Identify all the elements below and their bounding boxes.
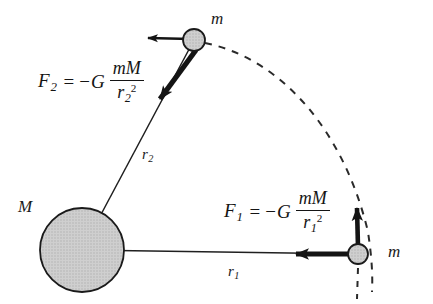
radius-label-r2-subscript: 2	[148, 153, 154, 164]
gravitation-force-diagram: M m m r1 r2 F2 = − G mM r22 F1 = − G mM …	[0, 0, 433, 304]
force-formula-2-lhs-subscript: 2	[50, 79, 57, 94]
force-formula-2-minus: −	[79, 71, 90, 93]
radius-label-r1-subscript: 1	[234, 270, 240, 281]
central-mass-label: M	[18, 198, 32, 215]
radius-label-r1-base: r	[228, 263, 234, 279]
force-formula-1-denominator-exponent: 2	[317, 213, 323, 225]
force-formula-2-constant: G	[91, 71, 105, 93]
force-vector-top-mass	[160, 50, 196, 99]
force-formula-1-lhs: F1	[224, 200, 244, 225]
radius-label-r2: r2	[142, 147, 153, 164]
velocity-vector-right-mass	[357, 208, 358, 247]
radius-label-r1: r1	[228, 264, 239, 281]
force-formula-1: F1 = − G mM r12	[224, 188, 330, 236]
force-formula-2: F2 = − G mM r22	[38, 58, 144, 106]
force-formula-2-numerator: mM	[110, 58, 144, 80]
force-formula-1-lhs-base: F	[224, 200, 236, 221]
central-mass-body	[40, 208, 124, 292]
force-formula-2-lhs-base: F	[38, 70, 50, 91]
force-formula-2-equals: =	[64, 71, 75, 93]
orbiting-mass-right-body	[348, 244, 368, 264]
force-formula-1-minus: −	[265, 201, 276, 223]
orbit-path-continuation-dashed	[357, 268, 358, 299]
orbiting-mass-top-label: m	[211, 10, 223, 27]
force-formula-1-lhs-subscript: 1	[236, 209, 243, 224]
diagram-canvas	[0, 0, 433, 304]
force-formula-1-numerator: mM	[296, 188, 330, 210]
force-formula-1-denominator: r12	[300, 211, 325, 236]
force-formula-1-fraction: mM r12	[296, 188, 330, 236]
force-formula-1-equals: =	[250, 201, 261, 223]
force-formula-2-denominator: r22	[114, 81, 139, 106]
force-formula-1-constant: G	[277, 201, 291, 223]
force-formula-2-denominator-exponent: 2	[131, 83, 137, 95]
radius-label-r2-base: r	[142, 146, 148, 162]
orbiting-mass-top-body	[183, 29, 205, 51]
orbiting-mass-right-label: m	[388, 243, 400, 260]
force-formula-2-lhs: F2	[38, 70, 58, 95]
force-formula-2-denominator-subscript: 2	[124, 91, 131, 105]
force-formula-2-fraction: mM r22	[110, 58, 144, 106]
force-formula-1-denominator-subscript: 1	[310, 221, 317, 235]
